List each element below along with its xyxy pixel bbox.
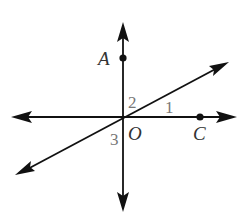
angle-label-3: 3 (110, 130, 119, 149)
point-o (122, 116, 125, 119)
label-c: C (193, 123, 206, 144)
point-c (196, 113, 203, 120)
angle-label-1: 1 (165, 98, 174, 117)
label-o: O (128, 123, 142, 144)
point-a (119, 54, 126, 61)
angle-label-2: 2 (128, 93, 137, 112)
arrow-lower-left-icon (15, 161, 35, 175)
geometry-diagram: A C O 1 2 3 (0, 0, 252, 218)
arrow-upper-right-icon (209, 62, 229, 76)
label-a: A (96, 48, 110, 69)
